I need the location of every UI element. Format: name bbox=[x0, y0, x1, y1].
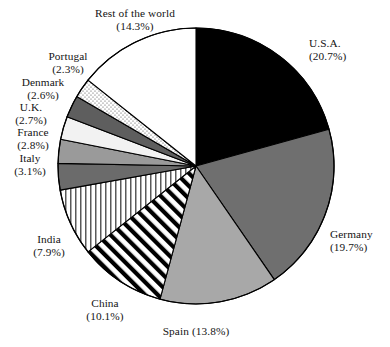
pie-label-germany: Germany(19.7%) bbox=[330, 228, 373, 255]
pie-label-percent-spain: (13.8%) bbox=[192, 325, 229, 337]
pie-chart-figure: U.S.A.(20.7%)Germany(19.7%)Spain (13.8%)… bbox=[0, 0, 390, 347]
pie-label-name-china: China bbox=[0, 297, 210, 310]
pie-label-italy: Italy(3.1%) bbox=[0, 152, 60, 179]
pie-label-name-italy: Italy bbox=[0, 152, 60, 165]
pie-label-percent-denmark: (2.6%) bbox=[0, 89, 86, 102]
pie-label-rest-of-the-world: Rest of the world(14.3%) bbox=[0, 7, 270, 34]
pie-label-name-denmark: Denmark bbox=[0, 76, 86, 89]
pie-label-u-k: U.K.(2.7%) bbox=[0, 101, 62, 128]
pie-label-france: France(2.8%) bbox=[0, 126, 66, 153]
pie-label-china: China(10.1%) bbox=[0, 297, 210, 324]
pie-label-name-u-s-a: U.S.A. bbox=[309, 37, 346, 50]
pie-label-percent-u-k: (2.7%) bbox=[0, 114, 62, 127]
pie-label-name-germany: Germany bbox=[330, 228, 373, 241]
pie-label-portugal: Portugal(2.3%) bbox=[0, 50, 136, 77]
pie-label-percent-china: (10.1%) bbox=[0, 310, 210, 323]
pie-label-name-portugal: Portugal bbox=[0, 50, 136, 63]
pie-label-percent-india: (7.9%) bbox=[0, 246, 98, 259]
pie-label-name-spain: Spain bbox=[163, 325, 192, 337]
pie-label-name-rest-of-the-world: Rest of the world bbox=[0, 7, 270, 20]
pie-label-name-france: France bbox=[0, 126, 66, 139]
pie-label-u-s-a: U.S.A.(20.7%) bbox=[309, 37, 346, 64]
pie-label-percent-france: (2.8%) bbox=[0, 139, 66, 152]
pie-label-percent-u-s-a: (20.7%) bbox=[309, 50, 346, 63]
pie-label-percent-portugal: (2.3%) bbox=[0, 63, 136, 76]
pie-label-spain: Spain (13.8%) bbox=[0, 325, 390, 338]
pie-label-percent-germany: (19.7%) bbox=[330, 241, 373, 254]
pie-label-india: India(7.9%) bbox=[0, 233, 98, 260]
pie-label-name-u-k: U.K. bbox=[0, 101, 62, 114]
pie-label-denmark: Denmark(2.6%) bbox=[0, 76, 86, 103]
pie-label-name-india: India bbox=[0, 233, 98, 246]
pie-label-percent-italy: (3.1%) bbox=[0, 165, 60, 178]
pie-label-percent-rest-of-the-world: (14.3%) bbox=[0, 20, 270, 33]
